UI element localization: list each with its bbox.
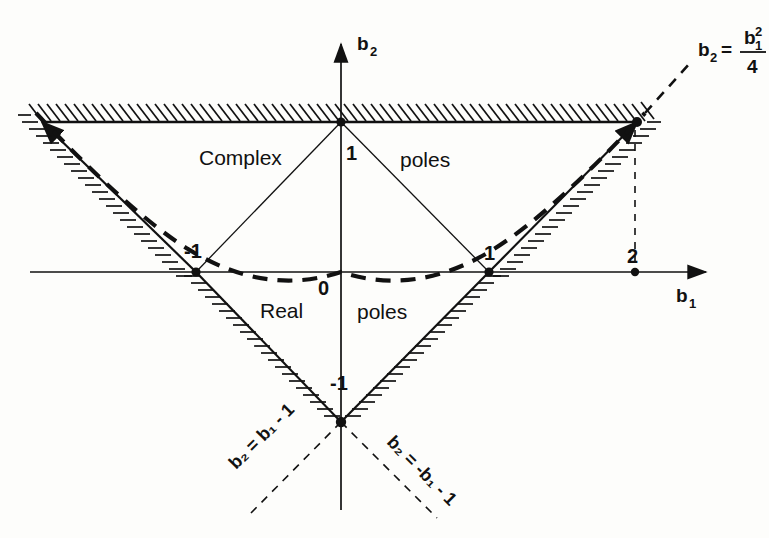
region-label-real-poles: poles: [357, 300, 407, 323]
y-axis-label: b 2: [357, 33, 377, 59]
region-label-real: Real: [260, 299, 303, 322]
region-label-complex-poles: poles: [400, 148, 450, 171]
x-axis-label: b 1: [676, 285, 696, 311]
tick-label-origin: 0: [318, 277, 329, 299]
hatch-upper-left: [18, 115, 192, 276]
triangle-edge-right-top: [341, 122, 489, 272]
line-label-right: b₂ = -b₁ - 1: [383, 432, 461, 510]
tick-label-x-pos2: 2: [627, 245, 638, 267]
curve-leader-dashed: [645, 62, 691, 113]
dot-0-minus1: [336, 417, 346, 427]
y-axis-label-sub: 2: [370, 44, 377, 59]
x-axis-label-main: b: [676, 285, 688, 306]
region-label-complex: Complex: [199, 146, 282, 169]
curve-eq-lhs-sub: 2: [710, 50, 717, 65]
tick-label-x-neg1: -1: [184, 240, 202, 262]
dot-1-0: [484, 267, 493, 276]
curve-equation-label: b 2 = b 1 2 4: [698, 24, 766, 77]
y-axis-label-main: b: [357, 33, 369, 54]
figure-canvas: b 2 b 1 -1 1 2 0 1 -1 Complex poles Real…: [0, 0, 769, 538]
tick-label-x-pos1: 1: [484, 242, 495, 264]
pole-region-diagram: b 2 b 1 -1 1 2 0 1 -1 Complex poles Real…: [0, 0, 769, 538]
curve-eq-numerator: b: [744, 27, 756, 48]
curve-eq-num-sub: 1: [755, 38, 762, 53]
tick-label-y-pos1: 1: [346, 142, 357, 164]
x-axis-label-sub: 1: [689, 296, 696, 311]
line-label-left: b₂ = b₁ - 1: [225, 399, 299, 473]
curve-eq-lhs: b: [698, 39, 710, 60]
triangle-edge-left-top: [196, 122, 341, 272]
boundary-upper-left-ray: [18, 115, 196, 276]
dot-2-0: [631, 268, 639, 276]
hatch-lower-right: [345, 276, 501, 416]
curve-eq-equals: =: [721, 39, 732, 60]
hatch-lower-left: [184, 276, 340, 416]
dot-2-1: [632, 117, 642, 127]
line-label-right-text: b₂ = -b₁ - 1: [383, 432, 461, 510]
dot-minus1-0: [191, 267, 200, 276]
dot-0-1: [336, 117, 345, 126]
boundary-lower-right: [341, 272, 501, 422]
curve-eq-num-sup: 2: [755, 24, 762, 39]
ray-upper-left-line: [42, 122, 196, 272]
stability-triangle: [196, 122, 489, 272]
line-b2-eq-b1-minus-1: [341, 272, 489, 422]
line-label-left-text: b₂ = b₁ - 1: [225, 399, 299, 473]
curve-eq-denominator: 4: [747, 56, 758, 77]
tick-label-y-neg1: -1: [330, 372, 348, 394]
